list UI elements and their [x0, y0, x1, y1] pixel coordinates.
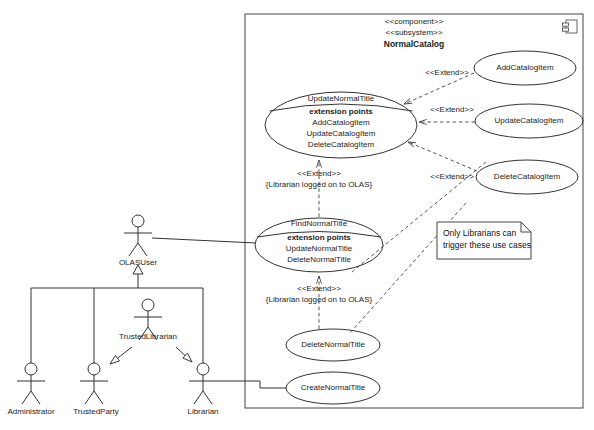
- component-stereotype-subsystem: <<subsystem>>: [386, 28, 443, 37]
- component-icon: [563, 20, 578, 33]
- extension-point-delete-catalog-item: DeleteCatalogItem: [308, 140, 374, 149]
- actor-label-librarian[interactable]: Librarian: [187, 407, 218, 416]
- use-case-label-create-normal-title[interactable]: CreateNormalTitle: [301, 383, 366, 392]
- actor-label-olas-user[interactable]: OLASUser: [119, 258, 157, 267]
- extension-point-update-catalog-item: UpdateCatalogItem: [307, 129, 376, 138]
- uml-use-case-diagram: <<component>> <<subsystem>> NormalCatalo…: [0, 0, 594, 430]
- note-line-1: Only Librarians can: [443, 228, 516, 239]
- trusted-librarian-to-trusted-party: [110, 347, 132, 364]
- extend-label-delete-normal-title: <<Extend>>: [297, 284, 341, 293]
- actor-label-administrator[interactable]: Administrator: [7, 407, 54, 416]
- actor-label-trusted-party[interactable]: TrustedParty: [73, 407, 119, 416]
- extension-points-label-find-normal-title: extension points: [287, 233, 351, 242]
- use-case-label-update-catalog-item[interactable]: UpdateCatalogItem: [495, 116, 564, 125]
- generalization-tree: [31, 274, 203, 363]
- assoc-librarian-create-normal-title: [217, 381, 286, 388]
- actor-label-trusted-librarian[interactable]: TrustedLibrarian: [119, 332, 177, 341]
- component-stereotype-component: <<component>>: [385, 17, 443, 26]
- use-case-label-find-normal-title[interactable]: FindNormalTitle: [291, 219, 347, 228]
- extension-points-label-update-normal-title: extension points: [309, 107, 373, 116]
- use-case-label-update-normal-title[interactable]: UpdateNormalTitle: [308, 94, 374, 103]
- extend-label-update-catalog-item: <<Extend>>: [430, 105, 474, 114]
- actor-librarian: [189, 363, 217, 404]
- extend-line-add-catalog-item: [404, 73, 474, 104]
- extension-point-update-normal-title: UpdateNormalTitle: [286, 244, 352, 253]
- extend-condition-delete-normal-title: {Librarian logged on to OLAS}: [266, 295, 372, 304]
- use-case-label-delete-catalog-item[interactable]: DeleteCatalogItem: [494, 172, 560, 181]
- extend-label-delete-catalog-item: <<Extend>>: [430, 172, 474, 181]
- assoc-olas-user-find-normal-title: [152, 238, 256, 243]
- actor-trusted-party: [80, 363, 108, 404]
- extension-point-delete-normal-title: DeleteNormalTitle: [287, 255, 351, 264]
- note-line-2: trigger these use cases: [443, 240, 531, 251]
- extend-condition-update-normal-title: {Librarian logged on to OLAS}: [266, 180, 372, 189]
- actor-administrator: [17, 363, 45, 404]
- use-case-label-add-catalog-item[interactable]: AddCatalogItem: [496, 63, 553, 72]
- actor-olas-user: [124, 215, 152, 256]
- extend-label-add-catalog-item: <<Extend>>: [425, 68, 469, 77]
- extend-label-update-normal-title: <<Extend>>: [297, 169, 341, 178]
- trusted-librarian-to-librarian: [176, 347, 192, 362]
- component-frame: [245, 14, 583, 408]
- use-case-label-delete-normal-title[interactable]: DeleteNormalTitle: [301, 340, 365, 349]
- extension-point-add-catalog-item: AddCatalogItem: [312, 118, 369, 127]
- component-name: NormalCatalog: [384, 40, 444, 49]
- extend-line-delete-catalog-item: [408, 142, 477, 171]
